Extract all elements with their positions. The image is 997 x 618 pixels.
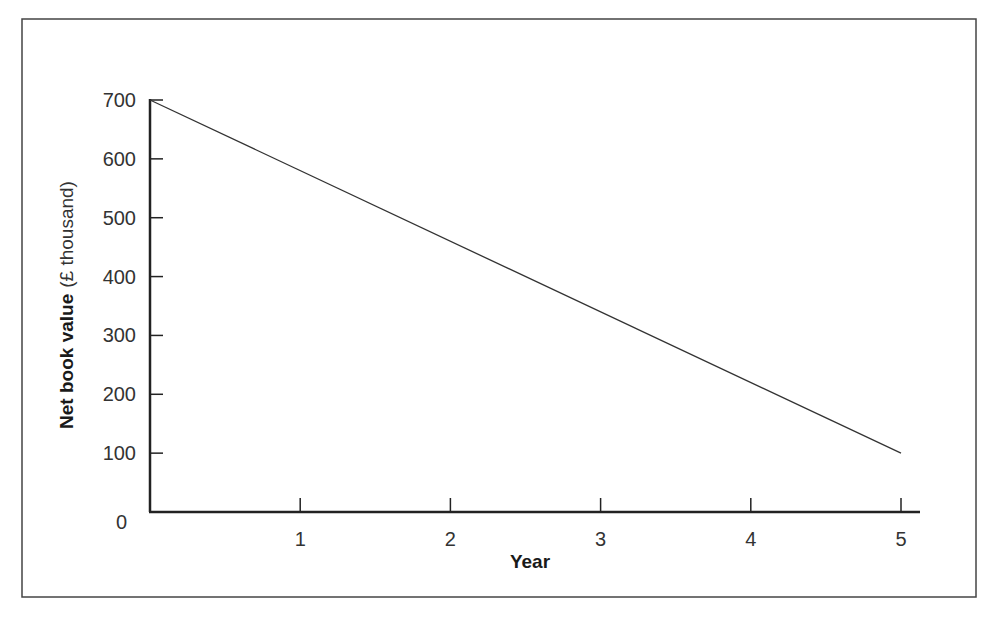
chart-frame: [22, 19, 976, 597]
y-axis-ticks: 0100200300400500600700: [103, 89, 163, 533]
x-tick-label: 3: [595, 528, 606, 550]
y-tick-label: 0: [116, 511, 127, 533]
x-axis-title: Year: [510, 551, 551, 572]
y-tick-label: 500: [103, 207, 136, 229]
data-line: [150, 100, 901, 453]
x-tick-label: 4: [745, 528, 756, 550]
x-tick-label: 2: [445, 528, 456, 550]
y-tick-label: 200: [103, 383, 136, 405]
y-axis-title-unit: (£ thousand): [56, 181, 77, 288]
y-tick-label: 400: [103, 266, 136, 288]
x-tick-label: 5: [895, 528, 906, 550]
chart: 0100200300400500600700 12345 Year Net bo…: [0, 0, 997, 618]
y-tick-label: 100: [103, 442, 136, 464]
y-tick-label: 700: [103, 89, 136, 111]
y-axis-title: Net book value(£ thousand): [56, 181, 77, 429]
x-axis-ticks: 12345: [295, 498, 907, 550]
y-tick-label: 600: [103, 148, 136, 170]
x-tick-label: 1: [295, 528, 306, 550]
y-axis-title-main: Net book value: [56, 294, 77, 429]
y-tick-label: 300: [103, 324, 136, 346]
